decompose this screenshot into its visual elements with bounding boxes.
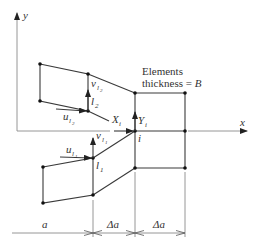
label-l2: l 2 (91, 95, 99, 110)
svg-text:l: l (91, 95, 94, 107)
svg-text:v: v (96, 129, 101, 141)
label-i: i (138, 132, 141, 144)
dimension-delta-a-1: Δa (93, 218, 135, 233)
svg-text:l: l (97, 84, 99, 92)
node (133, 166, 137, 170)
svg-text:i: i (119, 120, 121, 128)
svg-text:1: 1 (100, 166, 104, 174)
svg-text:l: l (72, 150, 74, 158)
label-Y-i: Y i (138, 114, 147, 129)
svg-text:2: 2 (100, 88, 103, 93)
node (183, 129, 187, 133)
label-u-l1: u l 1 (66, 143, 78, 159)
annotation-line1: Elements (142, 65, 183, 77)
x-axis-label: x (239, 116, 245, 128)
lower-element (43, 131, 135, 203)
node (38, 62, 42, 66)
dimension-delta-a-2-label: Δa (152, 218, 165, 230)
node (38, 99, 42, 103)
node (183, 166, 187, 170)
dimension-delta-a-2: Δa (135, 218, 185, 233)
label-X-i: X i (111, 113, 121, 128)
node (41, 165, 45, 169)
right-element (135, 93, 185, 168)
node (86, 72, 90, 76)
svg-text:2: 2 (95, 102, 99, 110)
svg-text:l: l (96, 159, 99, 171)
node (183, 91, 187, 95)
dimension-delta-a-1-label: Δa (106, 218, 119, 230)
svg-text:1: 1 (75, 154, 78, 159)
annotation-line2: thickness = B (142, 77, 202, 89)
svg-text:v: v (91, 77, 96, 89)
node (41, 201, 45, 205)
svg-text:l: l (69, 117, 71, 125)
dimension-a-label: a (42, 218, 48, 230)
node (133, 91, 137, 95)
finite-element-diagram: y x (0, 0, 256, 252)
y-axis-label: y (22, 9, 28, 21)
label-u-l2: u l 2 (63, 110, 75, 126)
svg-text:2: 2 (72, 121, 75, 126)
svg-text:i: i (145, 121, 147, 129)
dimension-a: a (12, 218, 93, 233)
label-l1: l 1 (96, 159, 104, 174)
node (91, 193, 95, 197)
svg-text:1: 1 (105, 140, 108, 145)
svg-text:l: l (102, 136, 104, 144)
